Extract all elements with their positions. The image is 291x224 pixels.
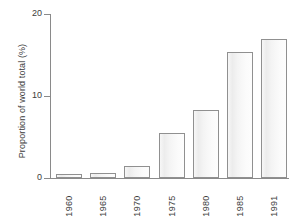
bar-1960 [56, 174, 82, 178]
x-axis-tick-labels: 1960196519701975198019851991 [50, 179, 289, 224]
bar-chart: Proportion of world total (%) 20 10 0 19… [0, 0, 291, 224]
bar-1970 [124, 166, 150, 178]
bar-1991 [261, 39, 287, 178]
y-tick-label-20: 20 [20, 9, 42, 18]
x-tick-label-1985: 1985 [235, 186, 245, 224]
x-tick-label-1980: 1980 [201, 186, 211, 224]
x-tick-label-1975: 1975 [167, 186, 177, 224]
bar-1975 [159, 133, 185, 178]
x-tick-label-1965: 1965 [98, 186, 108, 224]
y-tick-label-0: 0 [20, 173, 42, 182]
bar-1965 [90, 173, 116, 178]
plot-area [50, 14, 289, 178]
x-tick-label-1960: 1960 [64, 186, 74, 224]
x-tick-label-1970: 1970 [132, 186, 142, 224]
bar-1985 [227, 52, 253, 178]
bar-1980 [193, 110, 219, 178]
y-tick-label-10: 10 [20, 91, 42, 100]
x-tick-label-1991: 1991 [269, 186, 279, 224]
y-axis-label: Proportion of world total (%) [17, 21, 27, 181]
